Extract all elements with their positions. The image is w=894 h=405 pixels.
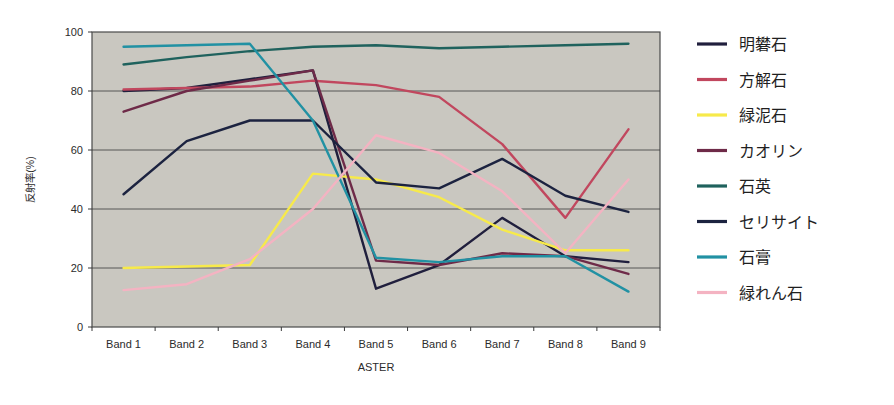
legend-label: 緑れん石 xyxy=(739,284,803,303)
y-tick-label: 100 xyxy=(65,26,83,38)
x-tick-label: Band 7 xyxy=(485,338,520,350)
x-tick-label: Band 9 xyxy=(611,338,646,350)
y-axis-title: 反射率(%) xyxy=(24,156,36,202)
x-tick-label: Band 1 xyxy=(106,338,141,350)
legend-label: 方解石 xyxy=(739,71,787,90)
y-tick-label: 20 xyxy=(71,262,83,274)
legend-label: 緑泥石 xyxy=(739,106,787,125)
x-tick-label: Band 8 xyxy=(548,338,583,350)
x-axis-labels: Band 1Band 2Band 3Band 4Band 5Band 6Band… xyxy=(106,338,646,350)
x-tick-label: Band 3 xyxy=(232,338,267,350)
y-tick-label: 60 xyxy=(71,144,83,156)
y-tick-label: 0 xyxy=(77,321,83,333)
reflectance-line-chart: 020406080100Band 1Band 2Band 3Band 4Band… xyxy=(0,0,894,405)
plot-area: 020406080100 xyxy=(65,26,660,333)
legend-label: カオリン xyxy=(739,142,803,161)
legend-label: 石膏 xyxy=(739,248,771,267)
legend-label: セリサイト xyxy=(739,213,819,232)
x-tick-label: Band 5 xyxy=(359,338,394,350)
x-axis-title: ASTER xyxy=(358,361,395,373)
chart-figure: 020406080100Band 1Band 2Band 3Band 4Band… xyxy=(0,0,894,405)
legend-label: 石英 xyxy=(739,177,771,196)
y-tick-label: 80 xyxy=(71,85,83,97)
legend-label: 明礬石 xyxy=(739,35,787,54)
x-tick-label: Band 6 xyxy=(422,338,457,350)
x-tick-label: Band 2 xyxy=(169,338,204,350)
y-tick-label: 40 xyxy=(71,203,83,215)
x-tick-label: Band 4 xyxy=(295,338,330,350)
